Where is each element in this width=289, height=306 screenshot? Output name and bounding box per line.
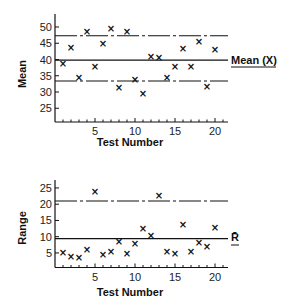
- y-tick-label: 30: [40, 86, 52, 98]
- data-point-x-marker: ×: [179, 219, 187, 230]
- data-point-x-marker: ×: [123, 248, 131, 259]
- data-point-x-marker: ×: [131, 238, 139, 249]
- x-tick-label: 20: [209, 125, 221, 137]
- x-tick-label: 10: [129, 271, 141, 283]
- data-point-x-marker: ×: [203, 81, 211, 92]
- data-point-x-marker: ×: [67, 42, 75, 53]
- data-point-x-marker: ×: [211, 44, 219, 55]
- data-point-x-marker: ×: [171, 61, 179, 72]
- y-tick-label: 25: [40, 182, 52, 194]
- x-tick-label: 15: [169, 271, 181, 283]
- data-point-x-marker: ×: [131, 74, 139, 85]
- y-tick-label: 20: [40, 198, 52, 210]
- bottom-y-axis-title: Range: [16, 211, 28, 245]
- data-point-x-marker: ×: [91, 61, 99, 72]
- control-charts: 5101520253035404550×××××××××××××××××××× …: [0, 0, 289, 306]
- y-tick-label: 45: [40, 37, 52, 49]
- data-point-x-marker: ×: [83, 26, 91, 37]
- y-tick-label: 35: [40, 70, 52, 82]
- y-tick-label: 10: [40, 231, 52, 243]
- y-tick-label: 40: [40, 54, 52, 66]
- data-point-x-marker: ×: [211, 222, 219, 233]
- data-point-x-marker: ×: [75, 72, 83, 83]
- data-point-x-marker: ×: [203, 241, 211, 252]
- data-point-x-marker: ×: [59, 58, 67, 69]
- data-point-x-marker: ×: [99, 38, 107, 49]
- bottom-x-axis-title: Test Number: [97, 286, 164, 298]
- data-point-x-marker: ×: [107, 246, 115, 257]
- data-point-x-marker: ×: [83, 244, 91, 255]
- y-tick-label: 50: [40, 21, 52, 33]
- x-tick-label: 15: [169, 125, 181, 137]
- data-point-x-marker: ×: [155, 190, 163, 201]
- range-chart: 5101520510152025××××××××××××××××××××: [40, 180, 228, 283]
- data-point-x-marker: ×: [171, 248, 179, 259]
- y-tick-label: 5: [46, 247, 52, 259]
- data-point-x-marker: ×: [195, 36, 203, 47]
- rbar-line-label: R̄: [231, 231, 239, 243]
- top-y-axis-title: Mean: [16, 60, 28, 88]
- y-tick-label: 15: [40, 214, 52, 226]
- data-point-x-marker: ×: [163, 72, 171, 83]
- data-point-x-marker: ×: [91, 186, 99, 197]
- data-point-x-marker: ×: [147, 230, 155, 241]
- x-tick-label: 20: [209, 271, 221, 283]
- y-tick-label: 25: [40, 102, 52, 114]
- x-tick-label: 5: [92, 271, 98, 283]
- top-x-axis-title: Test Number: [97, 136, 164, 148]
- mean-chart: 5101520253035404550××××××××××××××××××××: [40, 14, 228, 137]
- data-point-x-marker: ×: [115, 236, 123, 247]
- data-point-x-marker: ×: [187, 61, 195, 72]
- data-point-x-marker: ×: [179, 43, 187, 54]
- data-point-x-marker: ×: [115, 82, 123, 93]
- data-point-x-marker: ×: [123, 26, 131, 37]
- mean-line-label: Mean (X): [231, 54, 277, 66]
- data-point-x-marker: ×: [139, 88, 147, 99]
- data-point-x-marker: ×: [155, 52, 163, 63]
- data-point-x-marker: ×: [107, 23, 115, 34]
